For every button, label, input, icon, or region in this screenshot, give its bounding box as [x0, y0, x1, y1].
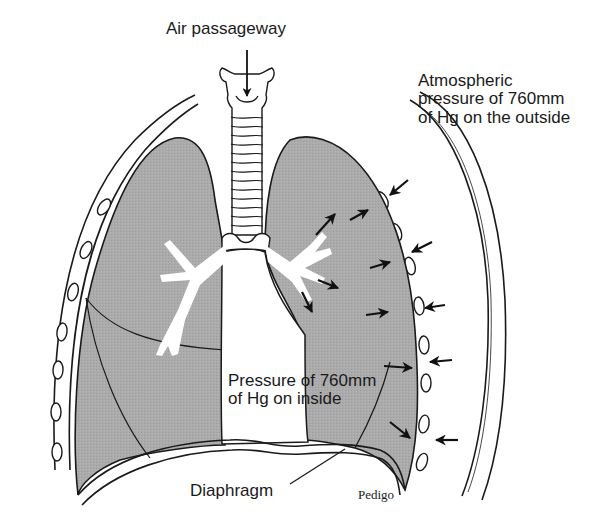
inside-pressure-label: Pressure of 760mm of Hg on inside: [228, 372, 376, 409]
inside-label-line2: of Hg on inside: [228, 390, 376, 408]
inside-label-line1: Pressure of 760mm: [228, 372, 376, 390]
diaphragm-label: Diaphragm: [190, 482, 273, 500]
atmospheric-label-line3: of Hg on the outside: [418, 109, 570, 127]
atmospheric-pressure-label: Atmospheric pressure of 760mm of Hg on t…: [418, 72, 570, 127]
artist-credit: Pedigo: [358, 488, 394, 502]
atmospheric-label-line1: Atmospheric: [418, 72, 570, 90]
atmospheric-label-line2: pressure of 760mm: [418, 90, 570, 108]
air-passageway-label: Air passageway: [166, 20, 286, 38]
